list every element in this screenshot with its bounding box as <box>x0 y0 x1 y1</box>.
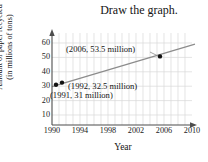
y-axis-arrowhead <box>49 29 54 36</box>
annotation-1991: (1991, 31 million) <box>50 91 113 100</box>
x-tick-1998: 1998 <box>93 127 123 135</box>
data-point-1992 <box>60 80 64 84</box>
data-point-2006 <box>158 54 162 58</box>
x-axis-label: Year <box>52 142 194 153</box>
data-point-1991 <box>54 83 58 87</box>
annotation-2006: (2006, 53.5 million) <box>66 45 135 54</box>
x-tick-2002: 2002 <box>121 127 151 135</box>
x-tick-2010: 2010 <box>177 127 207 135</box>
x-tick-2006: 2006 <box>149 127 179 135</box>
chart-figure: Draw the graph. Amount of paper recycled… <box>0 0 208 162</box>
x-axis-tick-labels: 1990 1994 1998 2002 2006 2010 <box>0 127 208 139</box>
x-tick-1990: 1990 <box>37 127 67 135</box>
x-tick-1994: 1994 <box>65 127 95 135</box>
